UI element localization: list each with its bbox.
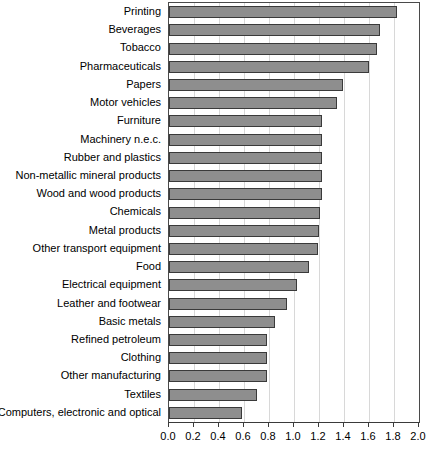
bar [169, 61, 369, 73]
x-axis-tick-label: 2.0 [410, 430, 425, 442]
bar [169, 207, 320, 219]
plot-area [168, 2, 420, 423]
category-label: Clothing [121, 348, 161, 366]
bar [169, 24, 380, 36]
bar-series [169, 3, 419, 422]
category-label: Food [136, 257, 161, 275]
bar [169, 152, 322, 164]
bar [169, 170, 322, 182]
x-axis-tick [343, 422, 344, 427]
bar [169, 225, 319, 237]
bar [169, 115, 322, 127]
x-axis-tick [318, 422, 319, 427]
x-axis-tick-label: 0.2 [185, 430, 200, 442]
bar [169, 316, 275, 328]
x-axis-tick [218, 422, 219, 427]
category-label: Pharmaceuticals [80, 57, 161, 75]
bar [169, 97, 337, 109]
category-label: Refined petroleum [71, 330, 161, 348]
bar [169, 79, 343, 91]
category-label: Metal products [89, 221, 161, 239]
bar [169, 243, 318, 255]
x-axis-tick-label: 1.6 [360, 430, 375, 442]
category-label: Leather and footwear [57, 294, 161, 312]
category-label: Basic metals [99, 312, 161, 330]
x-axis-tick-label: 1.0 [285, 430, 300, 442]
x-axis-tick [418, 422, 419, 427]
x-axis [168, 422, 418, 428]
category-label: Furniture [117, 111, 161, 129]
x-axis-tick [193, 422, 194, 427]
x-axis-tick [368, 422, 369, 427]
x-axis-tick-labels: 0.00.20.40.60.81.01.21.41.61.82.0 [168, 430, 418, 446]
bar [169, 188, 322, 200]
category-label: Motor vehicles [90, 93, 161, 111]
x-axis-tick [268, 422, 269, 427]
category-label: Other manufacturing [61, 366, 161, 384]
x-axis-tick-label: 1.4 [335, 430, 350, 442]
category-label: Chemicals [110, 202, 161, 220]
x-axis-tick-label: 1.2 [310, 430, 325, 442]
category-label: Beverages [108, 20, 161, 38]
x-axis-tick [293, 422, 294, 427]
bar-chart: PrintingBeveragesTobaccoPharmaceuticalsP… [0, 0, 436, 465]
bar [169, 407, 242, 419]
category-label: Printing [124, 2, 161, 20]
category-label: Papers [126, 75, 161, 93]
bar [169, 261, 309, 273]
category-label: Electrical equipment [62, 275, 161, 293]
bar [169, 134, 322, 146]
bar [169, 298, 287, 310]
bar [169, 352, 267, 364]
bar [169, 279, 297, 291]
x-axis-tick-label: 0.6 [235, 430, 250, 442]
bar [169, 370, 267, 382]
x-axis-tick [393, 422, 394, 427]
category-label: Rubber and plastics [64, 148, 161, 166]
x-axis-tick-label: 0.0 [160, 430, 175, 442]
bar [169, 43, 377, 55]
bar [169, 6, 397, 18]
category-label: Textiles [124, 385, 161, 403]
category-label: Non-metallic mineral products [16, 166, 162, 184]
x-axis-tick-label: 0.4 [210, 430, 225, 442]
category-label: Other transport equipment [33, 239, 161, 257]
x-axis-tick-label: 0.8 [260, 430, 275, 442]
category-label: Wood and wood products [36, 184, 161, 202]
bar [169, 334, 267, 346]
x-axis-tick [168, 422, 169, 427]
x-axis-tick-label: 1.8 [385, 430, 400, 442]
category-label: Machinery n.e.c. [80, 130, 161, 148]
bar [169, 389, 257, 401]
category-label: Computers, electronic and optical [0, 403, 161, 421]
category-axis-labels: PrintingBeveragesTobaccoPharmaceuticalsP… [0, 0, 165, 421]
category-label: Tobacco [120, 38, 161, 56]
x-axis-tick [243, 422, 244, 427]
